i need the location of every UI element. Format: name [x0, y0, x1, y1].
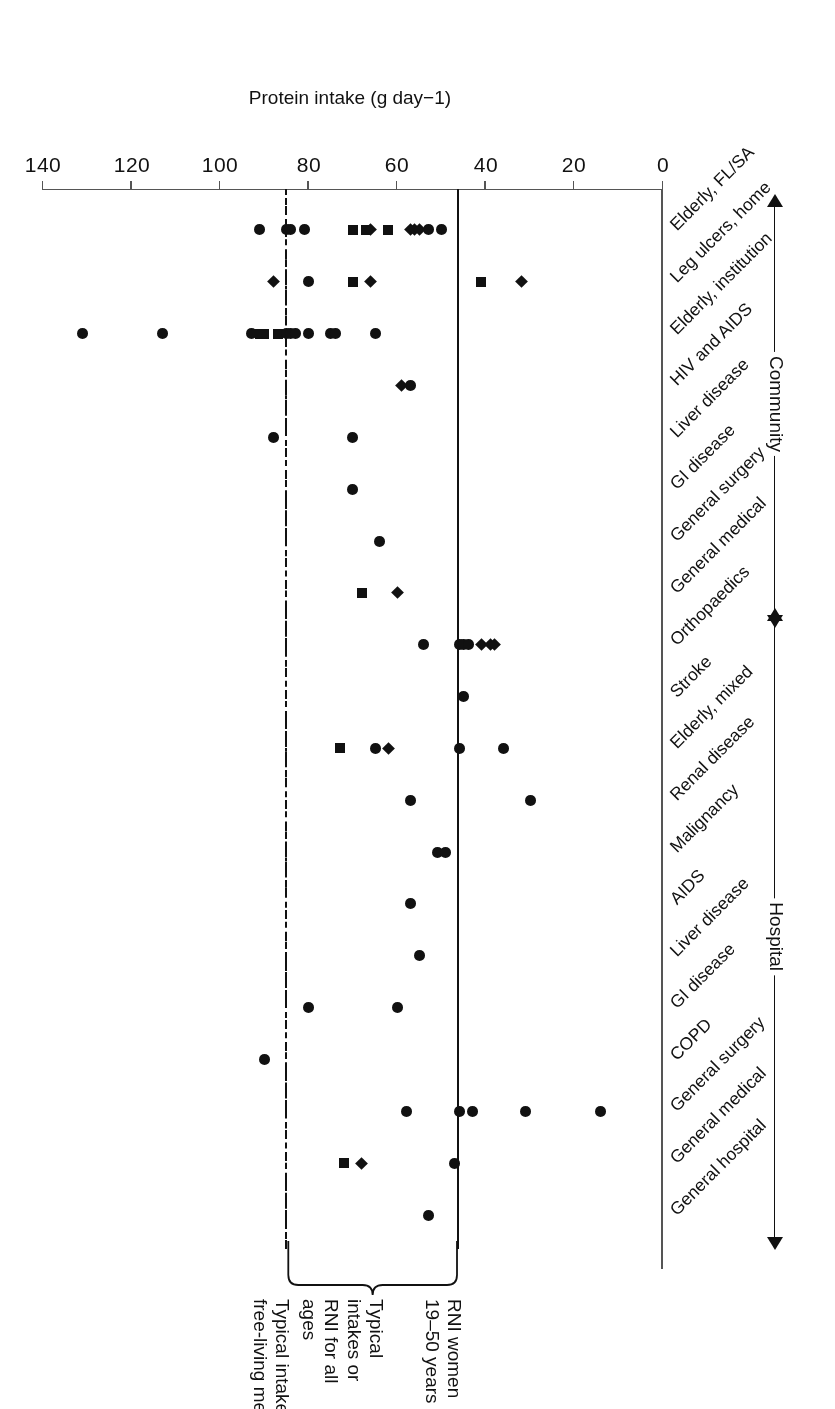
axis-tick	[130, 181, 131, 190]
data-point-square	[348, 277, 358, 287]
data-point-circle	[255, 224, 266, 235]
data-point-circle	[77, 328, 88, 339]
range-brace	[287, 1241, 460, 1297]
data-point-diamond	[355, 1157, 368, 1170]
data-point-circle	[370, 328, 381, 339]
data-point-circle	[303, 1002, 314, 1013]
axis-tick-label: 20	[552, 153, 596, 177]
data-point-circle	[392, 1002, 403, 1013]
data-point-diamond	[382, 742, 395, 755]
value-axis-line	[43, 189, 663, 190]
data-point-circle	[423, 1210, 434, 1221]
data-point-circle	[454, 743, 465, 754]
data-point-diamond	[267, 275, 280, 288]
data-point-circle	[525, 795, 536, 806]
data-point-circle	[401, 1106, 412, 1117]
axis-tick	[662, 181, 663, 190]
axis-tick	[396, 181, 397, 190]
data-point-circle	[405, 898, 416, 909]
axis-tick-label: 80	[287, 153, 331, 177]
axis-tick	[42, 181, 43, 190]
data-point-circle	[463, 639, 474, 650]
data-point-diamond	[364, 275, 377, 288]
data-point-square	[348, 225, 358, 235]
data-point-square	[259, 329, 269, 339]
data-point-square	[339, 1158, 349, 1168]
data-point-circle	[330, 328, 341, 339]
data-point-diamond	[515, 275, 528, 288]
value-axis-title: Protein intake (g day−1)	[115, 87, 585, 109]
data-point-circle	[157, 328, 168, 339]
data-point-square	[357, 588, 367, 598]
data-point-circle	[467, 1106, 478, 1117]
data-point-square	[335, 743, 345, 753]
data-point-circle	[268, 432, 279, 443]
data-point-circle	[596, 1106, 607, 1117]
axis-tick-label: 120	[110, 153, 154, 177]
axis-tick-label: 0	[641, 153, 685, 177]
data-point-circle	[423, 224, 434, 235]
data-point-circle	[370, 743, 381, 754]
category-axis-line	[661, 189, 663, 1269]
axis-tick-label: 60	[375, 153, 419, 177]
group-label-hospital: Hospital	[765, 898, 787, 975]
data-point-diamond	[391, 587, 404, 600]
group-label-community: Community	[765, 352, 787, 456]
axis-tick	[573, 181, 574, 190]
axis-tick	[219, 181, 220, 190]
axis-tick	[484, 181, 485, 190]
rotated-figure-frame: 020406080100120140 Protein intake (g day…	[0, 0, 835, 1409]
category-label: General hospital	[666, 1115, 771, 1220]
data-point-square	[383, 225, 393, 235]
data-point-square	[476, 277, 486, 287]
data-point-circle	[414, 950, 425, 961]
data-point-circle	[498, 743, 509, 754]
reference-line-rni-women-19-50-years	[457, 189, 459, 1249]
data-point-circle	[348, 432, 359, 443]
data-point-circle	[374, 536, 385, 547]
data-point-circle	[520, 1106, 531, 1117]
axis-tick-label: 40	[464, 153, 508, 177]
data-point-circle	[454, 1106, 465, 1117]
arrowhead-icon	[767, 1237, 783, 1250]
axis-tick-label: 100	[198, 153, 242, 177]
annotation-typical-all: Typical intakes or RNI for all ages	[297, 1299, 387, 1391]
data-point-circle	[303, 276, 314, 287]
figure-canvas: 020406080100120140 Protein intake (g day…	[0, 0, 835, 1409]
data-point-circle	[441, 847, 452, 858]
data-point-circle	[299, 224, 310, 235]
data-point-circle	[259, 1054, 270, 1065]
annotation-typical-men: Typical intake free-living men	[248, 1299, 293, 1403]
annotation-rni-women: RNI women 19–50 years	[420, 1299, 465, 1403]
axis-tick-label: 140	[21, 153, 65, 177]
category-label: AIDS	[666, 865, 710, 909]
reference-line-typical-intake-free-living-men	[285, 189, 287, 1249]
data-point-circle	[290, 328, 301, 339]
data-point-circle	[405, 380, 416, 391]
arrowhead-icon	[767, 194, 783, 207]
arrowhead-icon	[767, 615, 783, 628]
data-point-circle	[405, 795, 416, 806]
data-point-circle	[348, 484, 359, 495]
axis-tick	[307, 181, 308, 190]
data-point-circle	[418, 639, 429, 650]
data-point-circle	[303, 328, 314, 339]
data-point-circle	[458, 691, 469, 702]
data-point-circle	[286, 224, 297, 235]
data-point-circle	[436, 224, 447, 235]
